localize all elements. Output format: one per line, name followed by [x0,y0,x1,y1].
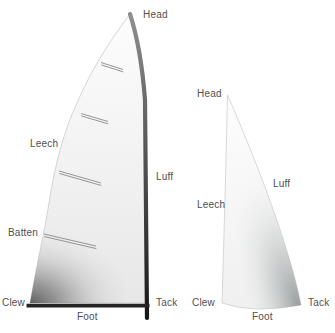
mainsail-foot-label: Foot [77,311,98,322]
jib-foot-label: Foot [252,311,273,322]
jib-tack-label: Tack [308,297,329,308]
mainsail-clew-label: Clew [2,297,25,308]
sail-parts-diagram: Head Leech Batten Clew Foot Luff Tack He… [0,0,335,333]
jib-clew-label: Clew [192,297,215,308]
jib-shadow [222,95,301,309]
jib-head-label: Head [197,88,222,99]
mainsail-batten-label: Batten [8,227,38,238]
mainsail-tack-label: Tack [156,297,177,308]
jib-luff-label: Luff [273,178,290,189]
mainsail-group [27,14,150,318]
sail-diagram-canvas [0,0,335,333]
jib-group [222,95,301,309]
jib-leech-label: Leech [197,199,225,210]
mainsail-leech-label: Leech [30,138,58,149]
mainsail-luff-label: Luff [156,171,173,182]
mainsail-shadow [30,14,146,303]
mainsail-head-label: Head [143,9,168,20]
